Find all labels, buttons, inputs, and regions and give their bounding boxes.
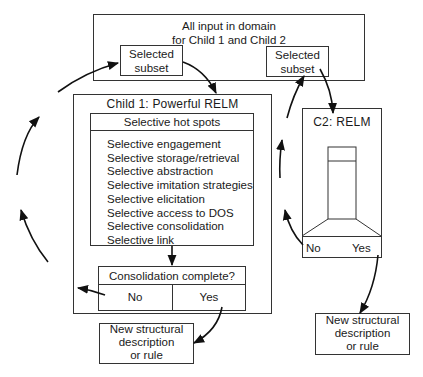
arrow-child2-no-loop-1 [285,210,303,245]
hot-spot-item: Selective access to DOS [107,207,253,221]
arrow-child1-no-loop-3 [17,117,39,175]
child1-output-label: New structural description or rule [99,323,194,362]
selected-subset-child2-label: Selected subset [266,48,329,76]
arrow-child2-yes-to-output [360,255,378,313]
consolidation-no: No [98,290,172,304]
hot-spot-item: Selective link [107,234,253,248]
selected-subset-child1-label: Selected subset [120,47,183,75]
arrow-child2-no-loop-2 [280,140,282,178]
hot-spot-item: Selective elicitation [107,193,253,207]
consolidation-yes: Yes [172,290,246,304]
child2-output-label: New structural description or rule [315,314,410,353]
hot-spot-item: Selective consolidation [107,220,253,234]
child2-title: C2: RELM [302,115,382,129]
hot-spots-header-divider [90,130,254,131]
hot-spot-item: Selective engagement [107,138,253,152]
hot-spot-item: Selective storage/retrieval [107,152,253,166]
arrow-child1-no-loop-2 [21,210,48,262]
hot-spots-header: Selective hot spots [90,115,254,129]
child1-title: Child 1: Powerful RELM [73,97,272,111]
consolidation-question: Consolidation complete? [98,269,246,283]
child2-no: No [306,241,321,255]
all-input-title: All input in domain for Child 1 and Chil… [93,19,365,47]
hot-spot-item: Selective abstraction [107,165,253,179]
hot-spot-item: Selective imitation strategies [107,179,253,193]
child2-bottom-divider [302,236,382,237]
child2-yes: Yes [352,241,371,255]
hot-spots-list: Selective engagement Selective storage/r… [107,138,253,248]
